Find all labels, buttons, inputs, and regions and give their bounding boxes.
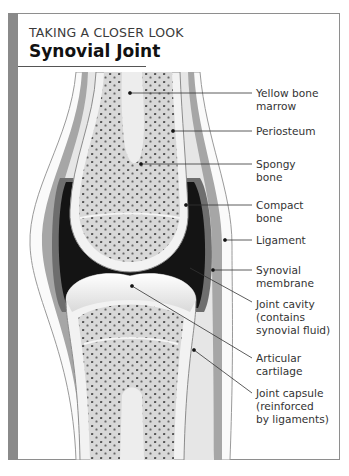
label-joint-cavity: Joint cavity (contains synovial fluid) xyxy=(256,298,330,337)
label-ligament: Ligament xyxy=(256,234,306,247)
label-periosteum: Periosteum xyxy=(256,125,316,138)
label-compact-bone: Compact bone xyxy=(256,199,303,225)
label-spongy-bone: Spongy bone xyxy=(256,158,296,184)
label-joint-capsule: Joint capsule (reinforced by ligaments) xyxy=(256,387,329,426)
label-synovial-membrane: Synovial membrane xyxy=(256,264,314,290)
label-articular-cartilage: Articular cartilage xyxy=(256,352,302,378)
label-yellow-bone-marrow: Yellow bone marrow xyxy=(256,87,318,113)
